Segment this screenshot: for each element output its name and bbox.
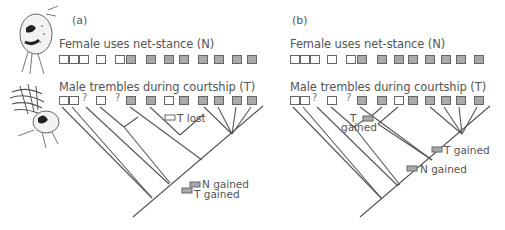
annotation-t-lost: T lost (177, 113, 206, 123)
annotation-t-gained-lineage-gained: gained (341, 122, 377, 132)
panel-b: (b) Female uses net-stance (N) Male trem… (270, 0, 505, 230)
annotation-t-gained: T gained (444, 145, 490, 155)
panel-a: (a) Female uses net-stance (N) Male trem… (0, 0, 270, 230)
annotation-n-gained: N gained (420, 164, 467, 174)
annotation-t-gained: T gained (194, 189, 240, 199)
phylogenetic-tree (270, 0, 505, 230)
